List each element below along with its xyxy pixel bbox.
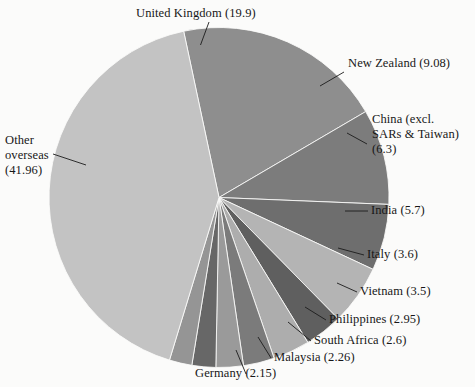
slice-label-other-overseas-line3: (41.96)	[5, 163, 42, 178]
slice-label-new-zealand: New Zealand (9.08)	[348, 56, 450, 71]
slice-label-china-line3: (6.3)	[372, 142, 396, 157]
slice-label-germany: Germany (2.15)	[195, 366, 276, 381]
slice-label-other-overseas-line2: overseas	[5, 148, 49, 163]
slice-label-china-line1: China (excl.	[372, 112, 434, 127]
slice-label-united-kingdom: United Kingdom (19.9)	[136, 6, 256, 21]
slice-label-south-africa: South Africa (2.6)	[314, 333, 406, 348]
slice-label-other-overseas-line1: Other	[5, 133, 34, 148]
slice-label-philippines: Philippines (2.95)	[329, 312, 420, 327]
slice-label-china-line2: SARs & Taiwan)	[372, 127, 459, 142]
slice-label-malaysia: Malaysia (2.26)	[274, 350, 355, 365]
slice-label-italy: Italy (3.6)	[367, 247, 418, 262]
pie-chart-figure: United Kingdom (19.9) New Zealand (9.08)…	[0, 0, 475, 387]
slice-label-vietnam: Vietnam (3.5)	[360, 284, 431, 299]
slice-label-india: India (5.7)	[371, 203, 425, 218]
